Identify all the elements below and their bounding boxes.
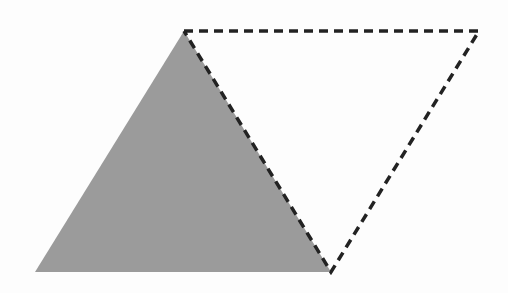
diagram-canvas xyxy=(0,0,508,293)
shaded-triangle xyxy=(35,31,331,272)
parallelogram-diagram xyxy=(0,0,508,293)
